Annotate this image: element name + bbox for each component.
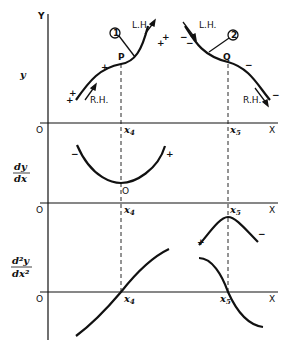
curve-2 xyxy=(185,26,270,100)
x-axis-label-top: X xyxy=(269,125,275,135)
origin-middle: O xyxy=(36,205,43,215)
x4-label-bottom: x4 xyxy=(123,293,135,306)
origin-top: O xyxy=(36,125,43,135)
plus-sign: + xyxy=(157,38,165,48)
dydx-denominator: dx xyxy=(14,173,28,184)
point-p: P xyxy=(118,52,125,62)
minus-sign: − xyxy=(71,149,79,159)
inflection-diagram: Y y O X P Q 1 2 L.H. R.H. L.H. R.H. + + … xyxy=(0,0,292,354)
x-axis-label-middle: X xyxy=(269,205,275,215)
x4-label-top: x4 xyxy=(123,124,135,137)
y-label: y xyxy=(19,69,27,80)
circle-2-label: 2 xyxy=(231,30,237,40)
rh-label-1: R.H. xyxy=(90,95,108,105)
min-zero-label: O xyxy=(122,186,129,196)
x-axis-label-bottom: X xyxy=(269,294,275,304)
minus-sign: − xyxy=(186,38,194,48)
origin-bottom: O xyxy=(36,294,43,304)
point-q: Q xyxy=(223,52,231,62)
d2y-curve-2-top xyxy=(199,217,258,245)
circle-1-label: 1 xyxy=(113,28,119,38)
minus-sign: − xyxy=(258,229,266,239)
d2ydx2-denominator: dx² xyxy=(12,268,30,279)
lh-label-1: L.H. xyxy=(132,20,149,30)
plus-sign: + xyxy=(66,95,74,105)
plus-sign: + xyxy=(197,237,205,247)
plus-sign: + xyxy=(166,149,174,159)
minus-sign: − xyxy=(245,60,253,70)
d2ydx2-numerator: d²y xyxy=(12,255,30,266)
dydx-numerator: dy xyxy=(14,161,28,172)
minus-sign: − xyxy=(272,90,280,100)
x5-label-top: x5 xyxy=(229,124,241,137)
y-axis-label: Y xyxy=(37,11,45,21)
rh-label-2: R.H. xyxy=(243,95,261,105)
lh-label-2: L.H. xyxy=(199,20,216,30)
plus-sign: + xyxy=(101,62,109,72)
x5-label-middle: x5 xyxy=(229,204,241,217)
x4-label-middle: x4 xyxy=(123,204,135,217)
